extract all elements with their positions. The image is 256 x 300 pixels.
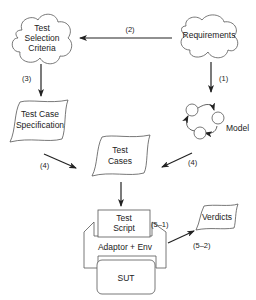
test-script-node: Test Script: [98, 210, 150, 237]
transition-arrow: [186, 116, 195, 131]
edge-label-4b: (4): [188, 158, 198, 167]
node-label: Test: [116, 213, 132, 223]
edge-label-3: (3): [22, 74, 32, 83]
edge-label-4a: (4): [40, 161, 50, 170]
edge-label-5-2: (5–2): [193, 241, 211, 250]
state-circle: [212, 112, 224, 124]
node-label: Cases: [108, 156, 132, 166]
node-label: Requirements: [183, 30, 236, 40]
requirements-node: Requirements: [181, 15, 238, 58]
node-label: Test: [112, 145, 128, 155]
node-label: Specification: [16, 120, 64, 130]
node-label: Adaptor + Env: [98, 242, 153, 252]
model-node: Model: [186, 104, 249, 139]
test-selection-criteria-node: Test Selection Criteria: [12, 14, 71, 64]
node-label: Verdicts: [202, 212, 232, 222]
node-label: Criteria: [28, 43, 56, 53]
arrow-5-2: [168, 231, 194, 243]
node-label: Test Case: [21, 109, 59, 119]
verdicts-node: Verdicts: [196, 204, 238, 230]
edge-label-2: (2): [125, 25, 135, 34]
node-label: Model: [226, 123, 249, 133]
node-label: SUT: [118, 273, 135, 283]
sut-node: SUT: [97, 260, 155, 294]
test-process-diagram: Test Selection Criteria Requirements (2)…: [0, 0, 256, 300]
state-circle: [186, 104, 198, 116]
transition-arrow: [198, 104, 214, 110]
node-label: Test: [34, 23, 50, 33]
test-cases-node: Test Cases: [92, 135, 150, 176]
edge-label-1: (1): [219, 74, 229, 83]
transition-arrow: [205, 126, 217, 133]
test-case-specification-node: Test Case Specification: [10, 100, 68, 142]
node-label: Script: [113, 223, 135, 233]
state-circle: [194, 127, 206, 139]
node-label: Selection: [25, 33, 60, 43]
edge-label-5-1: (5–1): [151, 220, 169, 229]
